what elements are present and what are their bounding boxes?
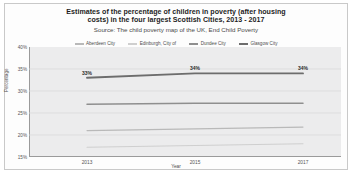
y-tick-label: 15% — [18, 155, 27, 160]
data-point-label: 33% — [82, 70, 92, 76]
line-chart: Estimates of the percentage of children … — [5, 4, 347, 169]
y-axis-title: Percentage — [4, 69, 9, 93]
chart-source-subtitle: Source: The child poverty map of the UK,… — [5, 26, 347, 34]
y-tick-label: 35% — [18, 67, 27, 72]
series-line-glasgow-city — [87, 73, 303, 77]
chart-title-line-1: Estimates of the percentage of children … — [5, 8, 347, 16]
series-line-aberdeen-city — [87, 127, 303, 131]
chart-title-line-2: costs) in the four largest Scottish Citi… — [5, 16, 347, 24]
legend-swatch-glasgow-city — [239, 43, 248, 44]
legend-swatch-aberdeen-city — [75, 43, 84, 44]
legend-swatch-dundee-city — [189, 43, 198, 44]
x-axis-title: Year — [5, 164, 347, 169]
data-point-label: 34% — [190, 65, 200, 71]
y-tick-label: 25% — [18, 111, 27, 116]
y-tick-label: 20% — [18, 133, 27, 138]
image-border: Estimates of the percentage of children … — [4, 3, 348, 170]
y-tick-label: 30% — [18, 89, 27, 94]
series-line-edinburgh-city-of — [87, 144, 303, 148]
y-tick-label: 40% — [18, 45, 27, 50]
plot-svg — [29, 47, 341, 157]
data-point-label: 34% — [298, 65, 308, 71]
legend-swatch-edinburgh-city-of — [128, 43, 137, 44]
series-line-dundee-city — [87, 103, 303, 104]
chart-title-block: Estimates of the percentage of children … — [5, 8, 347, 34]
plot-wrapper: 40%35%30%25%20%15% 201320152017 33%34%34… — [29, 47, 341, 157]
